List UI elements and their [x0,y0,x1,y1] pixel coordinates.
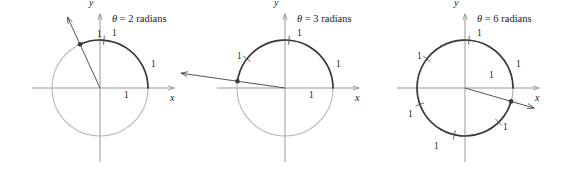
unit-length-label: 1 [237,52,242,62]
unit-length-label: 1 [516,60,521,70]
unit-length-label: 1 [151,60,156,70]
unit-length-label: 1 [297,29,302,39]
radian-tick-marks [416,36,502,140]
highlighted-arc [80,40,148,88]
x-axis-label: x [535,93,539,103]
axes [217,14,359,162]
unit-length-label: 1 [434,142,439,152]
tick-mark [104,36,105,45]
y-axis-label: y [89,0,93,8]
unit-circle-radian-figure: θ = 2 radiansyx1111 θ = 3 radiansyx1111 … [0,0,561,171]
terminal-point [78,42,83,47]
angle-caption: θ = 6 radians [477,14,532,25]
axes [32,14,174,162]
unit-length-label: 1 [477,29,482,39]
terminal-ray [465,88,534,108]
panel-6-radians: θ = 6 radiansyx1111111 [370,0,557,171]
circle-diagram [185,0,372,171]
angle-caption: θ = 2 radians [112,14,167,25]
axes [397,14,539,162]
panel-2-radians: θ = 2 radiansyx1111 [0,0,187,171]
unit-length-label: 1 [336,60,341,70]
terminal-point [235,79,240,84]
angle-caption-text: = 6 radians [482,13,531,24]
panel-3-radians: θ = 3 radiansyx1111 [185,0,372,171]
unit-length-label: 1 [97,30,102,40]
terminal-point [509,99,514,104]
unit-length-label: 1 [112,29,117,39]
angle-caption-text: = 2 radians [117,13,166,24]
angle-caption: θ = 3 radians [297,14,352,25]
radian-tick-marks [104,36,105,45]
unit-length-label: 1 [489,71,494,81]
tick-mark [289,36,290,45]
unit-length-label: 1 [417,52,422,62]
unit-length-label: 1 [408,110,413,120]
terminal-ray [68,17,100,88]
circle-diagram [370,0,557,171]
unit-length-label: 1 [124,91,129,101]
angle-caption-text: = 3 radians [302,13,351,24]
x-axis-label: x [170,93,174,103]
unit-length-label: 1 [503,123,508,133]
y-axis-label: y [274,0,278,8]
circle-diagram [0,0,187,171]
unit-length-label: 1 [309,91,314,101]
y-axis-label: y [454,0,458,8]
terminal-ray [181,73,285,88]
tick-mark [469,36,470,45]
x-axis-label: x [355,93,359,103]
